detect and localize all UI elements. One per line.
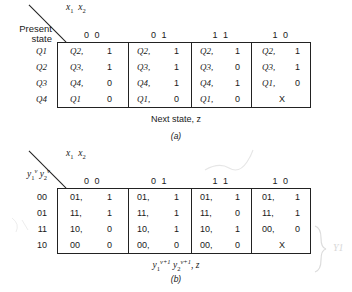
table-cell: 01,1 — [252, 189, 312, 205]
output-z: 1 — [235, 189, 240, 205]
next-state: 00, — [262, 221, 275, 237]
figure-a-input-variables: x1 x2 — [66, 2, 86, 14]
next-state: 10, — [70, 221, 83, 237]
table-cell: Q1,0 — [129, 91, 191, 107]
column-header-00: 0 0 — [57, 175, 128, 187]
next-state: Q3, — [200, 59, 213, 75]
output-z: 0 — [107, 91, 112, 107]
table-column-11: 01,1 11,0 10,1 00,0 — [192, 189, 252, 253]
output-z: 0 — [235, 91, 240, 107]
figure-a-row-labels: Q1 Q2 Q3 Q4 — [0, 43, 52, 107]
output-z: 0 — [174, 91, 179, 107]
next-state: 01, — [137, 189, 150, 205]
output-z: 1 — [295, 205, 300, 221]
output-z: 0 — [107, 221, 112, 237]
output-z: 0 — [295, 75, 300, 91]
row-label-10: 10 — [0, 237, 52, 253]
next-state: 10, — [200, 221, 213, 237]
next-state: Q2, — [137, 43, 150, 59]
table-column-00: 01,1 11,1 10,0 000 — [58, 189, 129, 253]
table-cell: 11,1 — [58, 205, 128, 221]
row-label-q3: Q3 — [0, 75, 52, 91]
figure-a-column-headers: 0 0 0 1 1 1 1 0 — [57, 29, 311, 41]
x1-sub: 1 — [70, 7, 73, 14]
column-header-00: 0 0 — [57, 29, 128, 41]
next-state: 11, — [200, 205, 212, 221]
table-cell: Q2,1 — [192, 43, 251, 59]
table-cell: 00,0 — [129, 237, 191, 253]
table-cell: 01,1 — [129, 189, 191, 205]
table-cell: Q2,1 — [252, 43, 312, 59]
column-header-11: 1 1 — [191, 175, 251, 187]
pencil-annotation-y1: Y1 — [333, 242, 344, 253]
table-cell: 01,1 — [192, 189, 251, 205]
next-state: Q1, — [200, 91, 213, 107]
output-z: 1 — [174, 205, 179, 221]
next-state: 10, — [137, 221, 150, 237]
figure-a-row-header: Present state — [0, 24, 52, 44]
output-z: 0 — [107, 75, 112, 91]
figure-b-input-variables: x1 x2 — [66, 148, 86, 160]
output-z: 1 — [235, 75, 240, 91]
next-state: Q1 — [70, 91, 81, 107]
table-cell: 00,0 — [252, 221, 312, 237]
output-z: 1 — [174, 221, 179, 237]
next-state: 11, — [137, 205, 149, 221]
output-z: 0 — [235, 237, 240, 253]
table-cell: 10,1 — [192, 221, 251, 237]
table-cell: 11,1 — [129, 205, 191, 221]
figure-b-caption: y1v+1 y2v+1, z — [0, 258, 352, 272]
pencil-smudge-icon — [195, 148, 275, 176]
table-cell: 11,0 — [192, 205, 251, 221]
table-column-10: 01,1 11,1 00,0 X — [252, 189, 312, 253]
table-cell: Q4,1 — [129, 75, 191, 91]
table-cell: 01,1 — [58, 189, 128, 205]
output-z: 1 — [174, 43, 179, 59]
next-state: Q1, — [137, 91, 150, 107]
output-z: 0 — [295, 221, 300, 237]
output-z: 0 — [174, 237, 179, 253]
table-cell: X — [252, 237, 312, 253]
table-column-11: Q2,1 Q3,0 Q4,1 Q1,0 — [192, 43, 252, 107]
table-cell: Q3,0 — [192, 59, 251, 75]
table-cell: Q3,1 — [129, 59, 191, 75]
output-z: 0 — [107, 237, 112, 253]
dont-care-x: X — [252, 237, 312, 253]
next-state: 11, — [262, 205, 274, 221]
next-state: Q2, — [200, 43, 213, 59]
table-column-01: Q2,1 Q3,1 Q4,1 Q1,0 — [129, 43, 192, 107]
next-state: Q4, — [200, 75, 213, 91]
output-z: 1 — [235, 221, 240, 237]
next-state: 01, — [200, 189, 213, 205]
column-header-11: 1 1 — [191, 29, 251, 41]
next-state: 00, — [137, 237, 150, 253]
next-state: 00 — [70, 237, 80, 253]
x1-sub: 1 — [70, 153, 73, 160]
output-z: 1 — [107, 43, 112, 59]
table-cell: Q2,1 — [58, 43, 128, 59]
figure-b-label: (b) — [0, 274, 352, 284]
pencil-smudge-icon — [8, 214, 34, 236]
next-state: Q2, — [70, 43, 83, 59]
column-header-10: 1 0 — [251, 175, 311, 187]
output-z: 1 — [174, 59, 179, 75]
dont-care-x: X — [252, 91, 312, 107]
x2-symbol: x2 — [78, 2, 85, 12]
y1-symbol: y1v — [27, 169, 37, 179]
x2-symbol: x2 — [78, 148, 85, 158]
figure-a-caption: Next state, z — [0, 114, 352, 124]
table-cell: 10,1 — [129, 221, 191, 237]
table-cell: Q3,1 — [252, 59, 312, 75]
output-z: 1 — [107, 59, 112, 75]
next-state: Q1, — [262, 75, 275, 91]
row-label-q2: Q2 — [0, 59, 52, 75]
column-header-01: 0 1 — [128, 175, 191, 187]
next-state: 00, — [200, 237, 213, 253]
table-cell: Q1,0 — [252, 75, 312, 91]
figure-a-label: (a) — [0, 131, 352, 141]
pencil-brace-icon — [312, 224, 332, 274]
x1-symbol: x1 — [66, 2, 73, 12]
output-z: 1 — [295, 189, 300, 205]
y2-symbol: y2v — [40, 169, 50, 179]
table-cell: 00,0 — [192, 237, 251, 253]
